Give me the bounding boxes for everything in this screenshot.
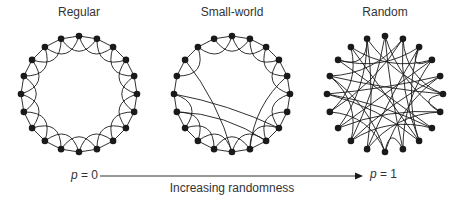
node bbox=[440, 91, 447, 98]
node bbox=[131, 73, 138, 80]
node bbox=[229, 149, 236, 156]
node bbox=[382, 149, 389, 156]
edge bbox=[24, 76, 36, 112]
edge bbox=[214, 137, 250, 149]
node bbox=[174, 73, 181, 80]
panel-title-regular: Regular bbox=[58, 5, 100, 19]
node bbox=[195, 44, 202, 51]
node bbox=[429, 125, 436, 132]
edge bbox=[122, 76, 134, 112]
node bbox=[284, 109, 291, 116]
edge bbox=[411, 47, 419, 141]
edge bbox=[111, 112, 134, 141]
axis-caption: Increasing randomness bbox=[170, 181, 295, 195]
node bbox=[211, 36, 218, 43]
node bbox=[123, 125, 130, 132]
p-zero-value: = 0 bbox=[78, 168, 98, 182]
node bbox=[348, 138, 355, 145]
node bbox=[327, 73, 334, 80]
edge bbox=[24, 112, 47, 141]
node bbox=[195, 138, 202, 145]
edge bbox=[111, 47, 134, 76]
edge bbox=[97, 39, 126, 62]
edge bbox=[24, 47, 47, 76]
node bbox=[348, 44, 355, 51]
node bbox=[110, 138, 117, 145]
node bbox=[134, 91, 141, 98]
node bbox=[131, 109, 138, 116]
edge bbox=[61, 39, 97, 51]
edge bbox=[185, 126, 214, 149]
node bbox=[324, 91, 331, 98]
node bbox=[58, 36, 65, 43]
edge bbox=[177, 112, 200, 141]
panel-title-small-world: Small-world bbox=[201, 5, 264, 19]
node bbox=[437, 73, 444, 80]
node bbox=[335, 125, 342, 132]
node bbox=[400, 146, 407, 153]
edge bbox=[250, 39, 279, 62]
node bbox=[263, 44, 270, 51]
node bbox=[174, 109, 181, 116]
edge bbox=[61, 137, 97, 149]
panel-title-random: Random bbox=[362, 5, 407, 19]
node bbox=[58, 146, 65, 153]
node bbox=[229, 33, 236, 40]
edge bbox=[97, 126, 126, 149]
node bbox=[171, 91, 178, 98]
node bbox=[287, 91, 294, 98]
p-one-value: = 1 bbox=[377, 167, 397, 181]
node bbox=[42, 44, 49, 51]
node bbox=[429, 57, 436, 64]
node bbox=[416, 44, 423, 51]
node bbox=[364, 146, 371, 153]
node bbox=[21, 109, 28, 116]
edge bbox=[32, 126, 61, 149]
node bbox=[276, 125, 283, 132]
node bbox=[416, 138, 423, 145]
node bbox=[29, 125, 36, 132]
node bbox=[276, 57, 283, 64]
node bbox=[29, 57, 36, 64]
edge bbox=[264, 47, 287, 76]
node bbox=[18, 91, 25, 98]
p-variable: p bbox=[71, 168, 78, 182]
node bbox=[94, 36, 101, 43]
node bbox=[247, 36, 254, 43]
node bbox=[76, 33, 83, 40]
edge bbox=[32, 39, 61, 62]
node bbox=[247, 146, 254, 153]
edge bbox=[174, 94, 279, 128]
node bbox=[42, 138, 49, 145]
node bbox=[110, 44, 117, 51]
node bbox=[335, 57, 342, 64]
node bbox=[284, 73, 291, 80]
node bbox=[94, 146, 101, 153]
node bbox=[211, 146, 218, 153]
node bbox=[263, 138, 270, 145]
node bbox=[400, 36, 407, 43]
p-zero-label: p = 0 bbox=[71, 168, 98, 182]
edge bbox=[250, 126, 279, 149]
node bbox=[382, 33, 389, 40]
node bbox=[182, 125, 189, 132]
node bbox=[327, 109, 334, 116]
node bbox=[21, 73, 28, 80]
node bbox=[364, 36, 371, 43]
node bbox=[76, 149, 83, 156]
p-variable: p bbox=[370, 167, 377, 181]
p-one-label: p = 1 bbox=[370, 167, 397, 181]
arrowhead-icon bbox=[355, 173, 363, 180]
edge bbox=[177, 47, 200, 76]
node bbox=[123, 57, 130, 64]
node bbox=[437, 109, 444, 116]
node bbox=[182, 57, 189, 64]
edge bbox=[214, 39, 250, 51]
